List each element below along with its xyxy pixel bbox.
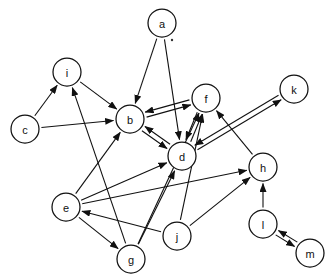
edge-e-to-g: [79, 217, 118, 248]
node-label-g: g: [128, 254, 134, 266]
edge-l-to-m: [276, 235, 295, 247]
node-label-h: h: [260, 162, 266, 174]
node-k[interactable]: k: [280, 75, 308, 103]
node-j[interactable]: j: [163, 222, 191, 250]
node-h[interactable]: h: [249, 153, 277, 181]
node-a[interactable]: a: [148, 9, 176, 37]
edge-l-to-m: [278, 230, 297, 242]
node-label-c: c: [22, 124, 28, 136]
node-label-b: b: [127, 114, 133, 126]
node-label-d: d: [179, 151, 185, 163]
node-d[interactable]: d: [168, 142, 196, 170]
graph-svg: aifkcbdhejlgm: [0, 0, 332, 280]
node-label-i: i: [66, 67, 68, 79]
node-label-k: k: [291, 84, 297, 96]
edge-d-to-f: [186, 112, 197, 140]
edge-b-to-f: [145, 100, 189, 112]
node-label-l: l: [262, 219, 264, 231]
diagram-canvas: aifkcbdhejlgm: [0, 0, 332, 280]
edge-b-to-f: [147, 105, 191, 117]
node-e[interactable]: e: [52, 193, 80, 221]
node-label-e: e: [63, 202, 69, 214]
edge-i-to-b: [80, 82, 117, 109]
decorative-speck: [171, 39, 173, 41]
node-label-j: j: [175, 231, 178, 243]
node-f[interactable]: f: [192, 84, 220, 112]
decorative-specks: [171, 39, 173, 41]
node-i[interactable]: i: [53, 58, 81, 86]
edge-a-to-b: [135, 39, 157, 104]
edge-c-to-i: [35, 85, 57, 115]
nodes-layer: aifkcbdhejlgm: [11, 9, 324, 273]
node-b[interactable]: b: [116, 105, 144, 133]
edge-a-to-d: [164, 39, 179, 139]
node-g[interactable]: g: [117, 245, 145, 273]
node-l[interactable]: l: [249, 210, 277, 238]
node-label-a: a: [159, 18, 166, 30]
node-label-m: m: [305, 248, 314, 260]
edge-e-to-b: [76, 132, 121, 193]
edge-h-to-f: [217, 111, 253, 155]
node-c[interactable]: c: [11, 115, 39, 143]
edge-j-to-h: [190, 177, 250, 225]
node-m[interactable]: m: [296, 239, 324, 267]
edge-c-to-b: [41, 121, 113, 128]
